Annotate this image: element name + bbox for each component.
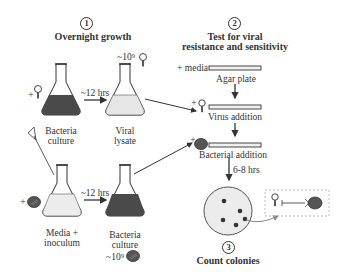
petri-dish [204,187,252,235]
virus-addition-label: Virus addition [200,112,270,122]
media-inoculum-label-1: Media + [37,228,87,238]
viral-count-label: ~10⁹ [114,52,138,62]
incubation-time-label: 6-8 hrs [233,165,267,175]
bacteria-culture-label-1: Bacteria [36,126,86,136]
time-label-bottom: ~12 hrs [78,188,112,198]
phage-icon [272,194,278,206]
time-label-top: ~12 hrs [78,88,112,98]
step-number-3: 3 [222,241,235,254]
plus-sign: + [191,98,197,108]
bacterial-addition-plate [209,143,261,147]
step3-title: Count colonies [190,256,266,266]
plus-sign: + [190,135,196,145]
bacterium-icon [308,197,322,209]
flask-bacteria-culture-top [42,64,80,115]
bacterium-icon [28,197,41,208]
phage-icon [199,100,205,112]
inset-resistance [265,190,329,216]
arrow-culture-to-bacterial-addition [134,143,192,174]
bacteria-culture-label-2: culture [36,136,86,146]
bacterium-icon [127,251,140,262]
step-number-1: 1 [80,17,93,30]
viral-lysate-label-2: lysate [100,136,150,146]
media-inoculum-label-2: inoculum [37,238,87,248]
bacterium-icon [195,139,208,150]
bacteria-count-label: ~10⁹ [104,252,126,262]
step2-title-line2: resistance and sensitivity [175,42,295,52]
bacteria-culture-label-1: Bacteria [100,230,150,240]
agar-plate-label: Agar plate [210,74,262,84]
arrow-lysate-to-virus-addition [145,99,196,111]
step-number-2: 2 [228,17,241,30]
flask-media-inoculum [43,165,81,216]
phage-icon [140,54,147,67]
bacterial-addition-label: Bacterial addition [193,150,273,160]
plus-sign: + [28,90,34,100]
bacteria-culture-label-2: culture [100,240,150,250]
viral-lysate-label-1: Viral [100,126,150,136]
agar-plate [209,66,261,70]
plus-sign: + [20,197,26,207]
media-label: + media [172,63,208,73]
step1-title: Overnight growth [48,32,138,42]
virus-addition-plate [209,105,261,109]
phage-icon [35,86,42,99]
